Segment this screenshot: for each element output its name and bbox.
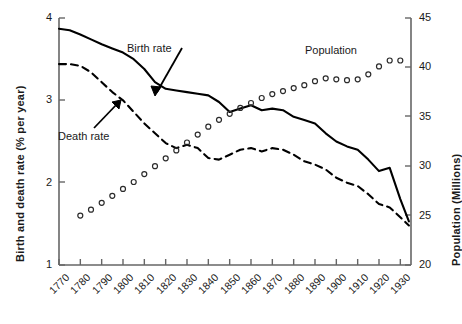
population-point	[89, 207, 94, 212]
y-axis-left-tick: 3	[30, 93, 52, 105]
death-rate-annotation-label: Death rate	[58, 130, 109, 142]
y-axis-right-title: Population (Millions)	[450, 154, 462, 266]
population-point	[131, 180, 136, 185]
population-point	[217, 117, 222, 122]
population-point	[153, 164, 158, 169]
birth-rate-annotation-label: Birth rate	[127, 42, 172, 54]
population-point	[163, 156, 168, 161]
population-point	[99, 200, 104, 205]
population-point	[195, 132, 200, 137]
y-axis-left-tick: 4	[30, 11, 52, 23]
chart-axes	[59, 18, 411, 265]
population-point	[323, 76, 328, 81]
population-point	[121, 186, 126, 191]
y-axis-right-tick: 45	[419, 11, 443, 23]
population-point	[259, 96, 264, 101]
population-point	[366, 72, 371, 77]
population-point	[377, 64, 382, 69]
y-axis-right-tick: 25	[419, 209, 443, 221]
population-point	[355, 77, 360, 82]
population-point	[206, 124, 211, 129]
population-point	[270, 92, 275, 97]
birth-rate-line	[59, 29, 409, 222]
y-axis-right-tick: 35	[419, 110, 443, 122]
death-rate-line	[59, 64, 409, 225]
population-point	[387, 58, 392, 63]
y-axis-left-tick: 2	[30, 176, 52, 188]
population-point	[398, 58, 403, 63]
y-axis-right-tick: 20	[419, 258, 443, 270]
population-point	[334, 77, 339, 82]
y-axis-right-tick: 40	[419, 60, 443, 72]
population-point	[313, 79, 318, 84]
population-points	[78, 58, 403, 218]
y-axis-left-title: Birth and death rate (% per year)	[14, 85, 26, 262]
population-point	[78, 213, 83, 218]
population-point	[281, 89, 286, 94]
chart-figure: Birth and death rate (% per year) Popula…	[0, 0, 462, 324]
y-axis-left-tick: 1	[30, 258, 52, 270]
population-point	[142, 172, 147, 177]
population-point	[291, 86, 296, 91]
y-axis-right-tick: 30	[419, 159, 443, 171]
population-point	[110, 193, 115, 198]
population-point	[345, 78, 350, 83]
population-annotation-label: Population	[305, 44, 357, 56]
population-point	[302, 83, 307, 88]
